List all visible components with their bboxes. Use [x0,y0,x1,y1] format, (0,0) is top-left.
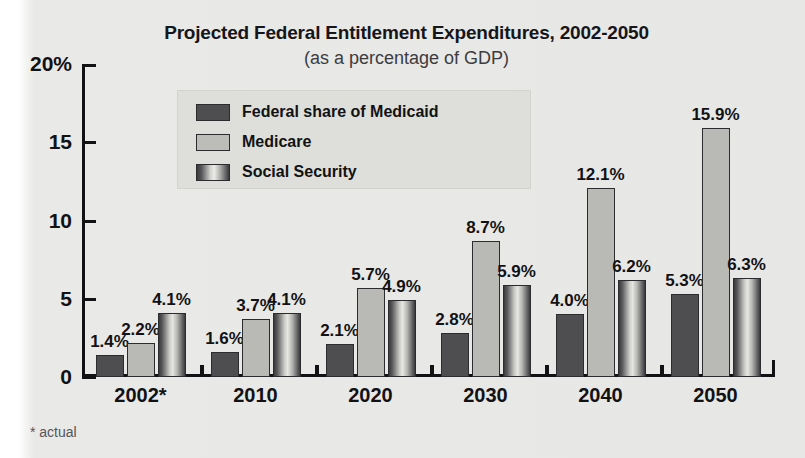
bar-medicaid[interactable] [671,294,699,377]
bar-medicare[interactable] [357,288,385,377]
bar-medicaid[interactable] [96,355,124,377]
legend-swatch-medicaid-icon [196,104,230,121]
legend-label-medicare: Medicare [242,133,311,151]
legend-label-social-security: Social Security [242,163,357,181]
y-axis-tick-label: 10 [0,209,72,233]
bar-value-label: 2.8% [435,310,474,330]
bar-medicare[interactable] [472,241,500,377]
bar-value-label: 2.2% [121,320,160,340]
chart-figure: Projected Federal Entitlement Expenditur… [0,0,805,458]
x-axis-label: 2010 [233,384,278,407]
bar-value-label: 6.3% [727,255,766,275]
bar-medicare[interactable] [127,343,155,377]
bar-medicare[interactable] [702,128,730,377]
legend-item-medicaid: Federal share of Medicaid [196,101,439,123]
x-axis-group-tick [660,365,664,377]
x-axis-label: 2020 [348,384,393,407]
bar-medicare[interactable] [242,319,270,377]
bar-social[interactable] [273,313,301,377]
bar-value-label: 4.0% [550,291,589,311]
bar-social[interactable] [388,300,416,377]
bar-value-label: 5.3% [665,271,704,291]
x-axis-label: 2030 [463,384,508,407]
y-axis-tick-label: 5 [0,287,72,311]
x-axis-group-tick [315,365,319,377]
legend-swatch-medicare-icon [196,134,230,151]
bar-value-label: 15.9% [691,105,739,125]
bar-social[interactable] [503,285,531,377]
y-axis-tick-label: 20% [0,52,72,76]
x-axis-group-tick [200,365,204,377]
bar-value-label: 4.9% [382,277,421,297]
y-axis-tick-label: 0 [0,365,72,389]
legend-label-medicaid: Federal share of Medicaid [242,103,439,121]
bar-value-label: 4.1% [267,290,306,310]
bar-medicaid[interactable] [441,333,469,377]
bar-value-label: 12.1% [576,165,624,185]
bar-group: 5.3%15.9%6.3% [660,64,775,377]
x-axis-label: 2002* [114,384,166,407]
bar-value-label: 5.9% [497,262,536,282]
bar-social[interactable] [733,278,761,377]
legend-swatch-social-security-icon [196,164,230,181]
bar-medicaid[interactable] [556,314,584,377]
bar-value-label: 1.6% [205,329,244,349]
y-axis-tick-label: 15 [0,130,72,154]
x-axis-label: 2040 [578,384,623,407]
bar-group: 4.0%12.1%6.2% [545,64,660,377]
chart-title: Projected Federal Entitlement Expenditur… [0,22,805,44]
bar-medicare[interactable] [587,188,615,377]
bar-medicaid[interactable] [326,344,354,377]
bar-value-label: 6.2% [612,257,651,277]
legend-item-social-security: Social Security [196,161,357,183]
bar-social[interactable] [618,280,646,377]
x-axis-group-tick [430,365,434,377]
bar-social[interactable] [158,313,186,377]
bar-value-label: 8.7% [466,218,505,238]
bar-value-label: 2.1% [320,321,359,341]
x-axis-label: 2050 [693,384,738,407]
chart-legend: Federal share of Medicaid Medicare Socia… [177,90,531,189]
bar-value-label: 4.1% [152,290,191,310]
legend-item-medicare: Medicare [196,131,311,153]
x-axis-group-tick [545,365,549,377]
bar-medicaid[interactable] [211,352,239,377]
chart-footnote: * actual [30,424,77,440]
